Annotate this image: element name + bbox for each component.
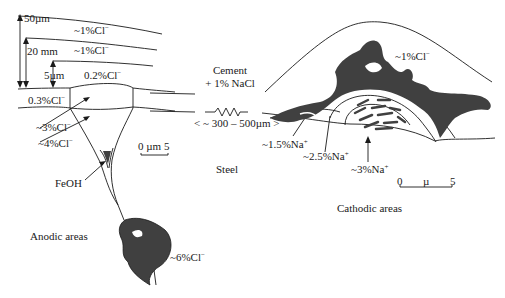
dimension-middle-label: 20 mm xyxy=(27,45,58,57)
right-scale-unit: µ xyxy=(423,175,429,187)
sodium-3-label: ~3%Na+ xyxy=(351,163,388,175)
cement-label: Cement xyxy=(200,64,260,76)
distance-label: < ~ 300 – 500µm > xyxy=(194,117,280,129)
left-scale-label: 0 µm 5 xyxy=(138,140,169,152)
cathodic-areas-label: Cathodic areas xyxy=(337,202,402,214)
corrosion-diagram: 50µm ~1%Cl− 20 mm ~1%Cl− 5µm 0.2%Cl− 0.3… xyxy=(0,0,505,298)
pit-chloride-6-label: ~6%Cl− xyxy=(170,251,205,263)
cathodic-deposit xyxy=(270,40,491,138)
layer-line-5 xyxy=(18,107,175,111)
feoh-label: FeOH xyxy=(55,177,82,189)
layer1-chloride-label: ~1%Cl− xyxy=(74,24,109,36)
sodium-2-5-label: ~2.5%Na+ xyxy=(303,150,349,162)
right-scale-five: 5 xyxy=(450,175,456,187)
pit-chloride-3-label: ~3%Cl− xyxy=(36,121,71,133)
sodium-1-5-label: ~1.5%Na+ xyxy=(262,138,308,150)
anodic-pit xyxy=(119,218,171,285)
dimension-inner-label: 5µm xyxy=(44,69,64,81)
cathode-chloride-label: ~1%Cl− xyxy=(395,50,430,62)
layer4-chloride-label: 0.3%Cl− xyxy=(28,94,65,106)
layer2-chloride-label: ~1%Cl− xyxy=(74,44,109,56)
steel-label: Steel xyxy=(216,163,238,175)
layer3-chloride-label: 0.2%Cl− xyxy=(84,69,121,81)
layer-line-3 xyxy=(53,61,153,66)
dimension-outer-label: 50µm xyxy=(24,12,50,24)
layer-line-4 xyxy=(18,84,175,93)
anodic-areas-label: Anodic areas xyxy=(30,230,88,242)
pit-chloride-4-label: ~4%Cl− xyxy=(38,137,73,149)
nacl-label: + 1% NaCl xyxy=(195,77,265,89)
right-scale-zero: 0 xyxy=(397,175,403,187)
